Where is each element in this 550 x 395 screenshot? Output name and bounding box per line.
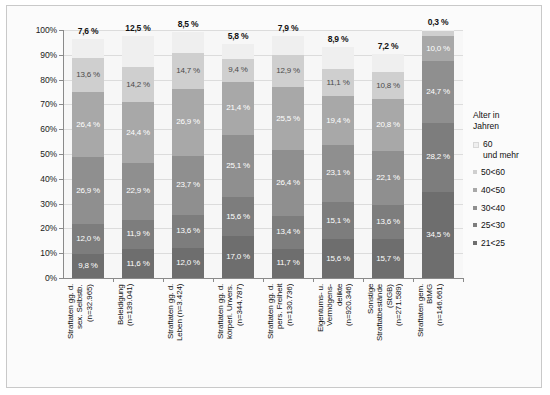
bar-segment[interactable]: 15,6 % (222, 197, 254, 236)
bar-segment[interactable]: 25,1 % (222, 135, 254, 197)
bar-segment[interactable]: 7,9 % (272, 36, 304, 56)
bar-segment[interactable]: 15,7 % (372, 239, 404, 278)
legend-item[interactable]: 60 und mehr (473, 139, 539, 160)
legend-item[interactable]: 25<30 (473, 220, 539, 231)
legend-item[interactable]: 30<40 (473, 203, 539, 214)
bar-column[interactable]: 8,5 %14,7 %26,9 %23,7 %13,6 %12,0 % (172, 30, 204, 278)
segment-value-label: 10,0 % (426, 45, 450, 53)
segment-value-label: 10,8 % (376, 82, 400, 90)
segment-value-label: 19,4 % (326, 117, 350, 125)
bar-segment[interactable]: 10,0 % (422, 36, 454, 61)
legend-item[interactable]: 40<50 (473, 185, 539, 196)
bar-segment[interactable]: 12,9 % (272, 55, 304, 87)
segment-value-label: 9,8 % (78, 262, 97, 270)
legend-item-label: 60 und mehr (483, 139, 519, 160)
bar-segment[interactable]: 20,8 % (372, 99, 404, 151)
bar-column[interactable]: 7,6 %13,6 %26,4 %26,9 %12,0 %9,8 % (72, 30, 104, 278)
bar-segment[interactable]: 15,6 % (322, 239, 354, 278)
legend-title: Alter in Jahren (473, 110, 539, 132)
segment-value-label: 26,9 % (76, 187, 100, 195)
bar-segment[interactable]: 13,4 % (272, 216, 304, 249)
y-axis-tick-label: 60% (11, 124, 57, 134)
legend-items: 60 und mehr50<6040<5030<4025<3021<25 (473, 139, 539, 248)
legend-swatch-icon (473, 142, 479, 148)
bar-segment[interactable]: 34,5 % (422, 192, 454, 278)
segment-value-label: 7,6 % (78, 26, 99, 36)
bar-segment[interactable]: 12,0 % (72, 224, 104, 254)
bar-segment[interactable]: 7,2 % (372, 54, 404, 72)
segment-value-label: 11,1 % (326, 79, 349, 87)
bar-segment[interactable]: 13,6 % (72, 58, 104, 92)
bar-segment[interactable]: 21,4 % (222, 82, 254, 135)
y-axis-tick-mark (59, 253, 63, 254)
y-axis-tick-mark (59, 80, 63, 81)
segment-value-label: 12,9 % (276, 67, 300, 75)
bar-segment[interactable]: 17,0 % (222, 236, 254, 278)
bar-column[interactable]: 5,8 %9,4 %21,4 %25,1 %15,6 %17,0 % (222, 30, 254, 278)
bar-stack: 8,5 %14,7 %26,9 %23,7 %13,6 %12,0 % (172, 30, 204, 278)
bar-segment[interactable]: 10,8 % (372, 72, 404, 99)
legend-swatch-icon (473, 206, 477, 210)
y-axis-tick-label: 30% (11, 199, 57, 209)
bar-segment[interactable]: 14,7 % (172, 53, 204, 89)
bar-segment[interactable]: 25,5 % (272, 87, 304, 150)
segment-value-label: 15,6 % (226, 213, 250, 221)
y-axis-tick-mark (59, 55, 63, 56)
y-axis-tick-label: 0% (11, 273, 57, 283)
y-axis-tick-mark (59, 129, 63, 130)
bar-segment[interactable]: 26,4 % (72, 92, 104, 157)
bar-segment[interactable]: 12,0 % (172, 248, 204, 278)
bar-segment[interactable]: 23,7 % (172, 156, 204, 215)
bar-segment[interactable]: 11,1 % (322, 69, 354, 97)
bar-stack: 5,8 %9,4 %21,4 %25,1 %15,6 %17,0 % (222, 30, 254, 278)
bar-segment[interactable]: 24,7 % (422, 61, 454, 122)
bar-segment[interactable]: 13,6 % (372, 205, 404, 239)
bar-segment[interactable]: 26,4 % (272, 150, 304, 215)
y-axis-tick-label: 70% (11, 99, 57, 109)
segment-value-label: 14,2 % (126, 81, 150, 89)
chart-frame: 7,6 %13,6 %26,4 %26,9 %12,0 %9,8 %12,5 %… (6, 5, 542, 388)
legend-item-label: 50<60 (481, 167, 505, 178)
bar-segment[interactable]: 9,8 % (72, 254, 104, 278)
bar-column[interactable]: 8,9 %11,1 %19,4 %23,1 %15,1 %15,6 % (322, 30, 354, 278)
segment-value-label: 15,6 % (326, 255, 350, 263)
bar-segment[interactable]: 11,9 % (122, 220, 154, 250)
segment-value-label: 17,0 % (226, 253, 250, 261)
segment-value-label: 26,4 % (76, 121, 100, 129)
bar-segment[interactable]: 26,9 % (172, 89, 204, 156)
bar-segment[interactable]: 28,2 % (422, 123, 454, 193)
bar-segment[interactable]: 8,9 % (322, 47, 354, 69)
bar-segment[interactable]: 22,1 % (372, 151, 404, 206)
bar-segment[interactable]: 11,6 % (122, 249, 154, 278)
x-axis-category-label: Straftaten gem. BtMG (n=146.661) (416, 284, 460, 388)
bar-segment[interactable]: 13,6 % (172, 215, 204, 249)
bar-segment[interactable]: 12,5 % (122, 36, 154, 67)
segment-value-label: 26,4 % (276, 179, 300, 187)
bar-segment[interactable]: 9,4 % (222, 59, 254, 82)
bar-segment[interactable]: 14,2 % (122, 67, 154, 102)
segment-value-label: 20,8 % (376, 121, 400, 129)
bar-segment[interactable]: 5,8 % (222, 44, 254, 58)
bar-segment[interactable]: 22,9 % (122, 163, 154, 220)
y-axis-tick-mark (59, 228, 63, 229)
legend-item-label: 40<50 (481, 185, 505, 196)
bar-stack: 8,9 %11,1 %19,4 %23,1 %15,1 %15,6 % (322, 30, 354, 278)
legend-swatch-icon (473, 223, 477, 227)
bar-segment[interactable]: 24,4 % (122, 102, 154, 163)
y-axis-tick-mark (59, 204, 63, 205)
legend-item[interactable]: 50<60 (473, 167, 539, 178)
bar-segment[interactable]: 11,7 % (272, 249, 304, 278)
bar-segment[interactable]: 26,9 % (72, 157, 104, 224)
bar-column[interactable]: 7,9 %12,9 %25,5 %26,4 %13,4 %11,7 % (272, 30, 304, 278)
legend-item[interactable]: 21<25 (473, 238, 539, 249)
bar-segment[interactable]: 7,6 % (72, 39, 104, 58)
bar-column[interactable]: 0,3 %10,0 %24,7 %28,2 %34,5 % (422, 30, 454, 278)
bar-segment[interactable]: 23,1 % (322, 145, 354, 202)
bar-column[interactable]: 12,5 %14,2 %24,4 %22,9 %11,9 %11,6 % (122, 30, 154, 278)
plot-area: 7,6 %13,6 %26,4 %26,9 %12,0 %9,8 %12,5 %… (63, 30, 463, 278)
bar-segment[interactable]: 15,1 % (322, 202, 354, 239)
bar-segment[interactable]: 8,5 % (172, 32, 204, 53)
segment-value-label: 24,4 % (126, 129, 150, 137)
bar-column[interactable]: 7,2 %10,8 %20,8 %22,1 %13,6 %15,7 % (372, 30, 404, 278)
bar-segment[interactable]: 19,4 % (322, 96, 354, 144)
